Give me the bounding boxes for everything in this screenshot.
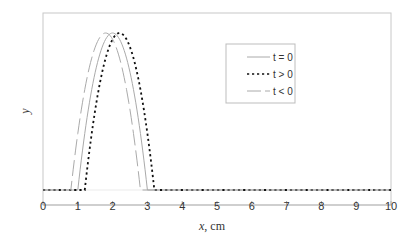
legend-label-t-lt-0: t < 0 [273,86,293,97]
legend-label-t-eq-0: t = 0 [273,52,293,63]
x-tick-label: 4 [179,200,185,212]
series-layer [43,33,391,190]
series-dotted-line [43,33,391,190]
x-tick-label: 1 [75,200,81,212]
x-tick-label: 9 [353,200,359,212]
chart-canvas: 012345678910 x, cm y t = 0 t > 0 t < 0 [0,0,415,243]
x-tick-label: 7 [284,200,290,212]
x-tick-labels: 012345678910 [40,200,397,212]
x-tick-label: 2 [110,200,116,212]
x-tick-label: 3 [144,200,150,212]
x-tick-label: 8 [318,200,324,212]
x-tick-label: 0 [40,200,46,212]
plot-frame [43,13,391,205]
x-axis-title: x, cm [198,219,226,233]
x-tick-label: 10 [385,200,397,212]
x-tick-label: 6 [249,200,255,212]
x-tick-label: 5 [214,200,220,212]
legend: t = 0 t > 0 t < 0 [226,44,295,103]
legend-label-t-gt-0: t > 0 [273,69,293,80]
y-axis-title: y [18,108,32,115]
